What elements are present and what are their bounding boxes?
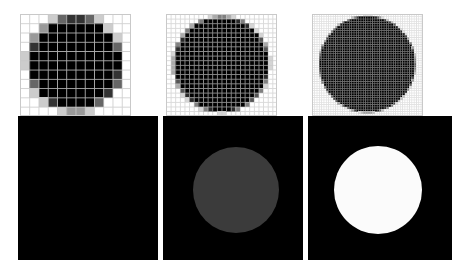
raster-cell [76, 51, 86, 61]
raster-cell [66, 14, 76, 24]
raster-cell [85, 14, 95, 24]
raster-cell [263, 84, 268, 89]
raster-cells [166, 14, 277, 116]
raster-cell [85, 97, 95, 107]
raster-cell [76, 107, 86, 116]
raster-cell [402, 95, 405, 98]
raster-cell [103, 60, 113, 70]
raster-cell [411, 79, 414, 82]
raster-cell [57, 79, 67, 89]
raster-cell [85, 70, 95, 80]
raster-cell [76, 97, 86, 107]
panel-bottom-middle [163, 116, 303, 260]
raster-cell [48, 60, 58, 70]
raster-cell [113, 51, 123, 61]
raster-cell [29, 51, 39, 61]
raster-cell [407, 88, 410, 91]
raster-cell [29, 42, 39, 52]
raster-cell [113, 42, 123, 52]
raster-cell [76, 23, 86, 33]
raster-cell [85, 88, 95, 98]
raster-cell [57, 60, 67, 70]
raster-cell [48, 42, 58, 52]
raster-cell [57, 97, 67, 107]
raster-cell [113, 70, 123, 80]
raster-cell [48, 33, 58, 43]
raster-cell [222, 111, 227, 116]
raster-cell [39, 60, 49, 70]
raster-cell [48, 79, 58, 89]
disk [193, 147, 279, 233]
raster-cell [235, 107, 240, 112]
raster-cell [103, 70, 113, 80]
raster-cell [57, 33, 67, 43]
raster-cell [66, 88, 76, 98]
raster-cell [48, 88, 58, 98]
raster-cell [94, 14, 104, 24]
raster-cell [57, 88, 67, 98]
raster-cell [94, 42, 104, 52]
panel-top-middle [166, 14, 277, 116]
raster-cell [39, 33, 49, 43]
raster-cell [103, 88, 113, 98]
raster-cell [48, 70, 58, 80]
raster-cell [57, 23, 67, 33]
raster-cell [76, 79, 86, 89]
disk [334, 146, 422, 234]
raster-cell [66, 70, 76, 80]
raster-cell [48, 14, 58, 24]
raster-cell [57, 107, 67, 116]
raster-cell [103, 33, 113, 43]
raster-cells [312, 14, 423, 116]
raster-cell [57, 51, 67, 61]
raster-cell [94, 51, 104, 61]
raster-cell [268, 65, 273, 70]
raster-cell [103, 51, 113, 61]
raster-cell [29, 60, 39, 70]
raster-cell [94, 70, 104, 80]
panel-bottom-right [308, 116, 452, 260]
raster-cell [39, 51, 49, 61]
raster-cell [76, 42, 86, 52]
raster-cell [76, 33, 86, 43]
raster-cell [39, 79, 49, 89]
raster-cell [39, 70, 49, 80]
raster-cell [103, 23, 113, 33]
raster-cell [85, 51, 95, 61]
raster-cell [66, 79, 76, 89]
raster-cell [94, 97, 104, 107]
raster-cell [103, 79, 113, 89]
panel-top-left [20, 14, 131, 116]
raster-cell [66, 97, 76, 107]
raster-cell [94, 79, 104, 89]
raster-cell [39, 97, 49, 107]
raster-cell [405, 93, 408, 96]
raster-cell [381, 109, 384, 112]
raster-cell [94, 23, 104, 33]
raster-cell [48, 97, 58, 107]
raster-cell [57, 42, 67, 52]
raster-cell [39, 42, 49, 52]
raster-cell [66, 107, 76, 116]
raster-cell [414, 72, 417, 75]
raster-cell [400, 97, 403, 100]
raster-cell [103, 42, 113, 52]
raster-cell [409, 86, 412, 89]
raster-cell [85, 79, 95, 89]
raster-cell [76, 14, 86, 24]
raster-cell [20, 60, 30, 70]
raster-cell [48, 23, 58, 33]
raster-cell [39, 23, 49, 33]
raster-cell [372, 111, 375, 114]
raster-cell [29, 88, 39, 98]
panel-top-right [312, 14, 423, 116]
raster-cell [66, 42, 76, 52]
raster-cell [245, 102, 250, 107]
raster-cell [391, 104, 394, 107]
raster-cell [29, 70, 39, 80]
raster-cell [66, 33, 76, 43]
raster-cell [39, 88, 49, 98]
raster-cell [66, 23, 76, 33]
raster-cell [29, 33, 39, 43]
raster-cells [20, 14, 131, 116]
